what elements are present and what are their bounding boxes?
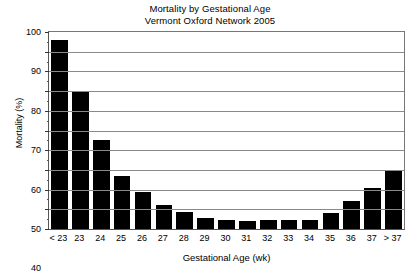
x-axis-tick-label: 26 bbox=[137, 233, 147, 243]
chart-figure: Mortality by Gestational Age Vermont Oxf… bbox=[0, 0, 420, 275]
y-axis-minor-tick bbox=[47, 42, 49, 43]
y-axis-tick: 50 bbox=[45, 131, 49, 132]
bar bbox=[114, 176, 131, 229]
y-axis-minor-tick bbox=[47, 101, 49, 102]
x-axis-label: Gestational Age (wk) bbox=[48, 252, 405, 263]
x-axis-tick-label: 32 bbox=[262, 233, 272, 243]
x-axis-tick-label: 37 bbox=[367, 233, 377, 243]
y-axis-tick: 80 bbox=[45, 71, 49, 72]
gridline bbox=[49, 131, 404, 132]
y-axis-minor-tick bbox=[47, 199, 49, 200]
y-axis-tick-label: 50 bbox=[31, 224, 41, 234]
y-axis-minor-tick bbox=[47, 140, 49, 141]
y-axis-tick: 0 bbox=[45, 229, 49, 230]
y-axis-minor-tick bbox=[47, 121, 49, 122]
y-axis-tick: 70 bbox=[45, 91, 49, 92]
x-axis-tick-label: 24 bbox=[95, 233, 105, 243]
bar bbox=[323, 213, 340, 229]
chart-title: Mortality by Gestational Age bbox=[0, 3, 420, 15]
y-axis-tick: 100 bbox=[45, 32, 49, 33]
gridline bbox=[49, 170, 404, 171]
bar bbox=[51, 40, 68, 229]
y-axis-tick: 40 bbox=[45, 150, 49, 151]
gridline bbox=[49, 71, 404, 72]
y-axis-minor-tick bbox=[47, 81, 49, 82]
y-axis-minor-tick bbox=[47, 62, 49, 63]
chart-subtitle: Vermont Oxford Network 2005 bbox=[0, 15, 420, 27]
y-axis-tick-label: 70 bbox=[31, 145, 41, 155]
bar bbox=[176, 212, 193, 229]
x-axis-tick-label: < 23 bbox=[50, 233, 68, 243]
x-axis-tick-label: 29 bbox=[200, 233, 210, 243]
bar bbox=[197, 218, 214, 229]
gridline bbox=[49, 209, 404, 210]
bar bbox=[385, 170, 402, 229]
bar bbox=[218, 220, 235, 229]
y-axis-tick-label: 80 bbox=[31, 106, 41, 116]
x-axis-tick-label: 25 bbox=[116, 233, 126, 243]
bar bbox=[239, 221, 256, 229]
y-axis-tick: 10 bbox=[45, 209, 49, 210]
x-axis-tick-label: 23 bbox=[74, 233, 84, 243]
y-axis-minor-tick bbox=[47, 219, 49, 220]
y-axis-tick-label: 60 bbox=[31, 185, 41, 195]
x-axis-tick-label: 35 bbox=[325, 233, 335, 243]
gridline bbox=[49, 190, 404, 191]
y-axis-label: Mortality (%) bbox=[14, 48, 24, 198]
x-axis-tick-label: 27 bbox=[158, 233, 168, 243]
bar bbox=[281, 220, 298, 229]
y-axis-tick-label: 90 bbox=[31, 66, 41, 76]
plot-area: 0102030405060708090100 bbox=[48, 31, 405, 230]
y-axis-tick: 30 bbox=[45, 170, 49, 171]
y-axis-tick: 60 bbox=[45, 111, 49, 112]
y-axis-tick-label: 40 bbox=[31, 263, 41, 273]
x-axis-tick-label: > 37 bbox=[384, 233, 402, 243]
bar bbox=[302, 220, 319, 229]
x-axis-tick-label: 36 bbox=[346, 233, 356, 243]
chart-title-block: Mortality by Gestational Age Vermont Oxf… bbox=[0, 3, 420, 27]
x-axis-tick-label: 31 bbox=[241, 233, 251, 243]
gridline bbox=[49, 52, 404, 53]
x-axis-tick-label: 30 bbox=[220, 233, 230, 243]
bar bbox=[260, 220, 277, 229]
x-axis-tick-label: 33 bbox=[283, 233, 293, 243]
y-axis-tick-label: 100 bbox=[26, 27, 41, 37]
gridline bbox=[49, 111, 404, 112]
bar bbox=[93, 140, 110, 229]
gridline bbox=[49, 150, 404, 151]
y-axis-tick: 20 bbox=[45, 190, 49, 191]
x-axis-tick-label: 34 bbox=[304, 233, 314, 243]
y-axis-minor-tick bbox=[47, 160, 49, 161]
gridline bbox=[49, 91, 404, 92]
x-axis-tick-label: 28 bbox=[179, 233, 189, 243]
bar bbox=[343, 201, 360, 229]
y-axis-tick: 90 bbox=[45, 52, 49, 53]
y-axis-minor-tick bbox=[47, 180, 49, 181]
